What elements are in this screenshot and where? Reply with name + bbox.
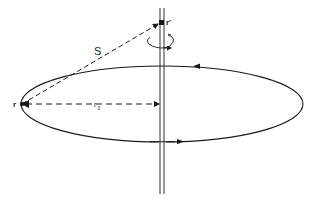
label-r: r <box>13 100 16 109</box>
label-r-prime: r' <box>166 18 171 27</box>
label-r0-subscript: 0 <box>98 105 101 111</box>
wire <box>160 8 164 194</box>
label-s: S <box>94 45 101 57</box>
loop-arrow-top-icon <box>193 64 200 69</box>
circulation-arrow <box>147 34 173 48</box>
diagram-canvas: S r r' r 0 <box>0 0 321 205</box>
label-r0: r 0 <box>94 101 101 111</box>
point-r-dot <box>20 102 24 106</box>
current-loop <box>21 66 303 142</box>
separation-vector-s <box>22 24 158 104</box>
circulation-arrow-lower-arc <box>147 35 173 48</box>
point-r-prime-marker <box>159 20 164 25</box>
loop-arrow-bottom-icon <box>177 139 184 144</box>
